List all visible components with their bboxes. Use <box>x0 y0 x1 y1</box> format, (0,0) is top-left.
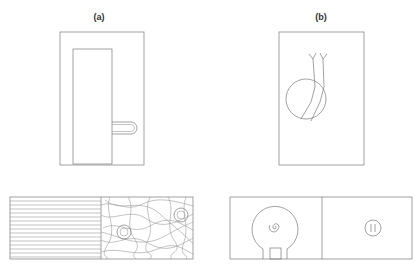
panel-a-top <box>60 32 144 165</box>
panel-b-bottom <box>230 197 412 259</box>
diagram-canvas: (a) (b) <box>0 0 415 267</box>
panel-a-label: (a) <box>94 12 105 22</box>
panel-b-bulb-outline <box>252 206 298 259</box>
panel-b-outer-box <box>279 32 364 165</box>
panel-a-cell-left <box>117 225 131 239</box>
panel-a-cell-left-nucleus <box>120 228 128 236</box>
panel-a-fibers <box>101 197 193 259</box>
panel-b-bulb-base <box>270 248 281 259</box>
panel-b-circle <box>286 79 326 119</box>
panel-a-inner-rect <box>73 49 112 164</box>
panel-b-wire-right <box>311 59 324 121</box>
panel-b-wire-left <box>301 59 315 119</box>
panel-b-bottom-box <box>230 197 412 259</box>
panel-b-top <box>279 32 364 165</box>
panel-a-bottom-box <box>10 197 193 259</box>
panel-b-small-circle <box>365 220 381 236</box>
panel-a-loop-inner <box>112 125 135 132</box>
panel-a-bottom <box>10 197 193 259</box>
panel-b-label: (b) <box>315 12 327 22</box>
panel-b-fork-right-icon <box>320 53 327 59</box>
panel-a-outer-box <box>60 32 144 165</box>
panel-a-loop-outer <box>112 122 137 134</box>
panel-b-fork-left-icon <box>309 53 316 59</box>
panel-a-parallel-lines <box>10 201 101 257</box>
panel-b-spiral-icon <box>269 224 279 232</box>
panel-a-cell-right-nucleus <box>177 211 185 219</box>
